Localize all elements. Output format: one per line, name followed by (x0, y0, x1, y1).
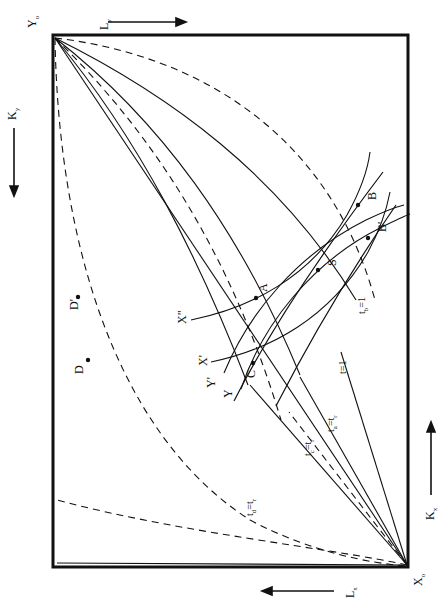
point-label-D: D (73, 365, 85, 374)
point-label-S: S (326, 259, 338, 266)
origin-Yo-sub: o (33, 16, 41, 20)
rays-from-Yo (55, 38, 407, 565)
dot-A (254, 296, 258, 300)
axis-arrow-Lx-head (262, 587, 272, 595)
dot-B (356, 203, 360, 207)
ray-label-ta-equals-tr: ta=tr (326, 415, 339, 432)
curve-label-X-double-prime: X" (176, 310, 188, 324)
point-label-D-prime: D' (68, 299, 80, 310)
ray-Yo-2 (55, 38, 300, 375)
origin-Xo-letter: X (411, 577, 425, 586)
ray-label-tb-equals-1: tb=1 (357, 297, 370, 314)
ray-label-tb-sub: b (362, 308, 370, 312)
origin-Yo-letter: Y (25, 19, 39, 28)
axis-Ly-sub: y (105, 19, 113, 23)
ray-label-td-equals-tr: td=tr (245, 499, 258, 516)
point-label-C: C (245, 370, 257, 378)
ray-label-tc-sub: c (308, 450, 316, 453)
origin-Xo-sub: o (419, 574, 427, 578)
ray-Xo-1 (341, 352, 407, 565)
ray-label-td-tr-sub: r (250, 499, 258, 501)
curve-label-Y: Y (222, 389, 234, 398)
point-label-B: B (366, 192, 378, 200)
axis-Kx-sub: x (431, 508, 439, 512)
ray-label-t-equals-1: t=1 (338, 361, 348, 374)
ray-label-tc-tr-sub: r (308, 439, 316, 441)
point-label-B-prime: B' (376, 222, 388, 232)
dot-S (316, 268, 320, 272)
axis-Kx-letter: K (423, 511, 437, 520)
axis-arrow-Ky-head (10, 186, 18, 196)
ray-label-td-sub: d (250, 510, 258, 514)
axis-Lx-sub: x (351, 587, 359, 591)
ray-label-tc-equals-tr: tc=tr (303, 439, 316, 456)
axis-Ky-sub: y (13, 108, 21, 112)
figure-canvas: Yo Xo Ky Kx Ly Lx A B B' C S D D' X" X' … (0, 0, 448, 604)
axis-arrow-Kx-head (427, 422, 435, 432)
isoquant-X-prime (211, 192, 390, 362)
curve-label-Y-prime: Y' (205, 377, 217, 388)
dashed-ray-Xo (289, 412, 407, 565)
axis-Ky-letter: K (5, 111, 19, 120)
axis-Ly-letter: L (97, 23, 111, 30)
ray-label-ta-tr-sub: r (331, 415, 339, 417)
ray-Yo-diag (55, 38, 407, 565)
marked-points (76, 203, 370, 365)
point-label-A: A (257, 283, 269, 292)
rays-from-Xo (57, 352, 407, 565)
dashed-ray-Xo-2 (57, 500, 407, 565)
isoquants-X (191, 152, 390, 362)
ray-Xo-3 (250, 385, 407, 565)
axis-label-Lx: Lx (344, 587, 359, 598)
axis-label-Kx: Kx (424, 508, 439, 520)
axis-label-Ly: Ly (98, 19, 113, 30)
dot-Bp (366, 236, 370, 240)
axis-label-Ky: Ky (6, 108, 21, 120)
isoquant-X-double-prime (191, 152, 370, 320)
dashed-ray-Yo-inner (55, 38, 281, 420)
origin-label-Yo: Yo (26, 16, 41, 28)
curve-label-X-prime: X' (197, 355, 209, 366)
origin-label-Xo: Xo (412, 574, 427, 586)
ray-Xo-2 (300, 377, 407, 565)
dot-C (251, 361, 255, 365)
dot-D (86, 358, 90, 362)
ray-label-ta-sub: a (331, 426, 339, 429)
ray-Yo-3 (55, 38, 248, 385)
ray-Xo-4 (57, 563, 407, 565)
axis-Lx-letter: L (343, 591, 357, 598)
axis-arrow-Ly-head (176, 18, 186, 26)
